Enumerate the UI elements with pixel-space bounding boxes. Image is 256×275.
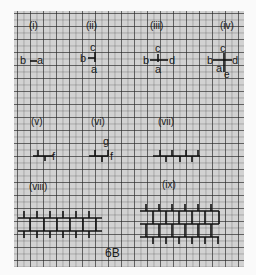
panel-vi-letter-g: g [103,135,109,147]
panel-viii-label: (viii) [29,181,47,192]
panel-vi-diagram [89,150,108,162]
panel-ii-letter-b: b [80,52,86,64]
panel-iv-letter-e: e [224,69,230,80]
panel-vii-diagram [153,150,200,162]
panel-ix-label: (ix) [162,179,176,190]
panel-iii-label: (iii) [150,20,163,31]
panel-v-diagram [33,150,53,161]
panel-ix-diagram [140,204,219,244]
panel-ii-letter-a: a [91,63,98,75]
panel-iv-letter-a: a [216,62,223,74]
panel-iii-letter-b: b [143,54,149,66]
panel-ii-label: (ii) [86,20,97,31]
panel-vi-label: (vi) [91,116,105,127]
bond-pattern-drawing: (i) (ii) (iii) (iv) (v) (vi) (vii) (viii… [0,0,256,275]
panel-i-letter-b: b [20,54,26,66]
panel-v-letter-f: f [52,150,56,162]
panel-iii-letter-d: d [169,54,175,66]
panel-viii-diagram [18,211,102,238]
panel-iii-letter-c: c [155,42,161,54]
panel-v-label: (v) [31,116,43,127]
panel-vi-letter-f: f [110,150,114,162]
panel-iv-letter-d: d [232,54,238,66]
panel-iv-letter-c: c [220,42,226,54]
panel-iii-letter-a: a [155,63,162,75]
panel-ii-diagram [88,52,95,62]
panel-iii-diagram [150,54,168,62]
figure-caption: 6B [105,246,120,260]
panel-i-letter-a: a [37,54,44,66]
panel-iv-label: (iv) [220,20,234,31]
panel-vii-label: (vii) [158,116,174,127]
panel-ii-letter-c: c [90,41,96,53]
panel-iv-letter-b: b [207,54,213,66]
panel-i-label: (i) [29,20,38,31]
